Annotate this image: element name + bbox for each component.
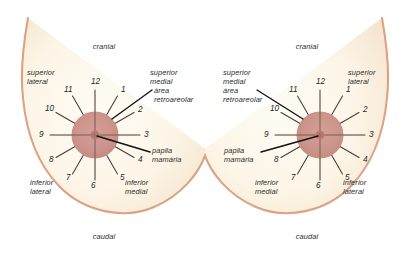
clock-number-2: 2 bbox=[138, 106, 143, 114]
clock-number-11: 11 bbox=[289, 86, 298, 94]
quadrant-superior-medial-line1: superior bbox=[150, 68, 178, 77]
quadrant-inferior-lateral-line1: inferior bbox=[30, 178, 53, 187]
quadrant-superior-lateral-line2: lateral bbox=[348, 77, 369, 86]
nipple-papilla bbox=[90, 130, 99, 139]
clock-number-4: 4 bbox=[363, 156, 368, 164]
clock-number-1: 1 bbox=[346, 86, 351, 94]
clock-number-9: 9 bbox=[39, 131, 44, 139]
quadrant-inferior-medial-line1: inferior bbox=[255, 178, 278, 187]
clock-number-6: 6 bbox=[91, 182, 96, 190]
quadrant-inferior-medial-line2: medial bbox=[255, 187, 277, 196]
clock-number-12: 12 bbox=[91, 78, 100, 86]
clock-number-7: 7 bbox=[66, 174, 71, 182]
diagram-right-breast: cranial caudal superior medial superior … bbox=[205, 0, 410, 255]
clock-number-5: 5 bbox=[345, 174, 350, 182]
clock-number-8: 8 bbox=[49, 156, 54, 164]
callout-retroareolar-line1: área bbox=[154, 86, 169, 95]
clock-number-3: 3 bbox=[369, 131, 374, 139]
quadrant-superior-medial-line2: medial bbox=[150, 77, 172, 86]
breast-clock-quadrant-figure: cranial caudal superior lateral superior… bbox=[0, 0, 410, 255]
right-breast-illustration bbox=[205, 0, 410, 255]
clock-number-10: 10 bbox=[45, 105, 54, 113]
axis-label-cranial: cranial bbox=[74, 42, 134, 51]
callout-papilla-line1: papila bbox=[224, 146, 244, 155]
quadrant-inferior-lateral-line2: lateral bbox=[343, 187, 364, 196]
quadrant-inferior-medial-line1: inferior bbox=[125, 178, 148, 187]
axis-label-caudal: caudal bbox=[74, 232, 134, 241]
clock-number-6: 6 bbox=[316, 182, 321, 190]
quadrant-inferior-medial-line2: medial bbox=[125, 187, 147, 196]
clock-number-5: 5 bbox=[120, 174, 125, 182]
clock-number-11: 11 bbox=[64, 86, 73, 94]
axis-label-cranial: cranial bbox=[277, 42, 337, 51]
quadrant-superior-lateral-line1: superior bbox=[27, 68, 55, 77]
quadrant-superior-medial-line1: superior bbox=[223, 68, 251, 77]
clock-number-7: 7 bbox=[291, 174, 296, 182]
axis-label-caudal: caudal bbox=[277, 232, 337, 241]
callout-retroareolar-line1: área bbox=[223, 86, 238, 95]
clock-number-8: 8 bbox=[274, 156, 279, 164]
diagram-left-breast: cranial caudal superior lateral superior… bbox=[0, 0, 205, 255]
callout-papilla-line2: mamária bbox=[224, 155, 253, 164]
quadrant-superior-lateral-line2: lateral bbox=[27, 77, 48, 86]
clock-number-9: 9 bbox=[264, 131, 269, 139]
nipple-papilla bbox=[315, 130, 324, 139]
left-breast-illustration bbox=[0, 0, 205, 255]
clock-number-4: 4 bbox=[138, 156, 143, 164]
callout-papilla-line1: papila bbox=[152, 146, 172, 155]
clock-number-12: 12 bbox=[316, 78, 325, 86]
quadrant-inferior-lateral-line2: lateral bbox=[30, 187, 51, 196]
clock-number-3: 3 bbox=[144, 131, 149, 139]
clock-number-2: 2 bbox=[363, 106, 368, 114]
clock-number-10: 10 bbox=[270, 105, 279, 113]
callout-retroareolar-line2: retroareolar bbox=[223, 95, 262, 104]
clock-number-1: 1 bbox=[121, 86, 126, 94]
callout-papilla-line2: mamária bbox=[152, 155, 181, 164]
callout-retroareolar-line2: retroareolar bbox=[154, 95, 193, 104]
quadrant-superior-medial-line2: medial bbox=[223, 77, 245, 86]
quadrant-superior-lateral-line1: superior bbox=[348, 68, 376, 77]
